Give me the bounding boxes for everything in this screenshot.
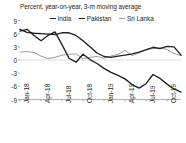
series-line-pakistan [20, 29, 181, 92]
plot-area [0, 0, 186, 143]
chart-container: Percent, year-on-year, 3-m moving averag… [0, 0, 186, 143]
x-tick-label: Jan-19 [107, 83, 114, 103]
series-line-india [20, 29, 181, 57]
x-tick-label: Jan-18 [23, 83, 30, 103]
x-tick-label: Oct-19 [170, 84, 177, 103]
x-tick-label: Jul-19 [149, 86, 156, 103]
x-tick-label: Jul-18 [65, 86, 72, 103]
x-tick-label: Oct-18 [86, 84, 93, 103]
x-tick-label: Apr-19 [128, 84, 135, 103]
series-line-sri-lanka [20, 48, 181, 59]
x-tick-label: Apr-18 [44, 84, 51, 103]
